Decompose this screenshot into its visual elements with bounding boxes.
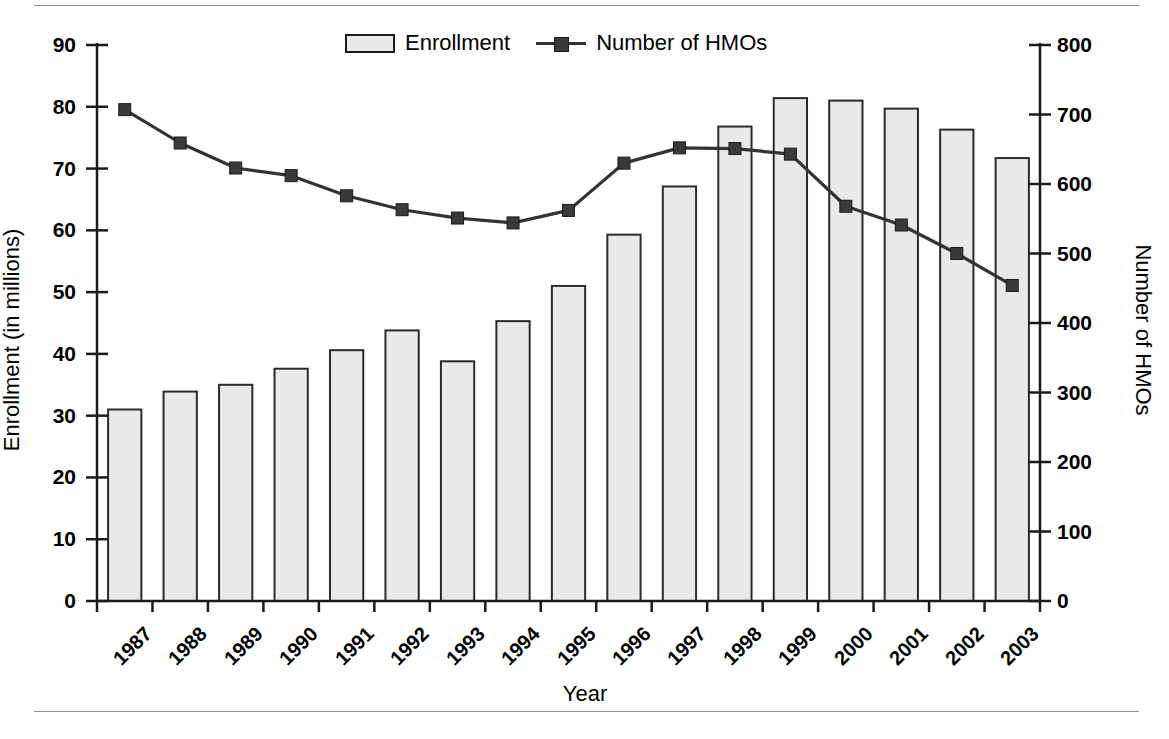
bar-1997 <box>663 186 696 601</box>
bar-1993 <box>441 361 474 601</box>
y-tick-label-right-300: 300 <box>1057 382 1127 403</box>
line-marker-1991 <box>341 190 353 202</box>
bar-1989 <box>219 385 252 601</box>
y-tick-label-left-70: 70 <box>16 158 76 179</box>
y-tick-label-left-40: 40 <box>16 343 76 364</box>
bar-2002 <box>940 130 973 601</box>
line-marker-1989 <box>230 162 242 174</box>
line-marker-1998 <box>729 143 741 155</box>
y-tick-label-right-700: 700 <box>1057 104 1127 125</box>
line-marker-1995 <box>563 204 575 216</box>
bar-1991 <box>330 350 363 601</box>
y-tick-label-right-500: 500 <box>1057 243 1127 264</box>
bar-1999 <box>774 98 807 601</box>
line-marker-2003 <box>1006 279 1018 291</box>
y-tick-label-right-100: 100 <box>1057 521 1127 542</box>
y-tick-label-right-800: 800 <box>1057 34 1127 55</box>
y-tick-label-right-600: 600 <box>1057 173 1127 194</box>
line-marker-1990 <box>285 170 297 182</box>
line-marker-1999 <box>784 148 796 160</box>
line-marker-1988 <box>174 137 186 149</box>
bar-1990 <box>275 369 308 601</box>
bar-2003 <box>996 158 1029 601</box>
y-tick-label-right-200: 200 <box>1057 451 1127 472</box>
y-tick-label-left-90: 90 <box>16 34 76 55</box>
bar-2001 <box>885 109 918 601</box>
y-tick-label-left-80: 80 <box>16 96 76 117</box>
bar-1988 <box>164 392 197 601</box>
line-marker-1997 <box>673 142 685 154</box>
line-marker-1992 <box>396 204 408 216</box>
bar-1994 <box>496 321 529 601</box>
line-marker-1996 <box>618 157 630 169</box>
hmo-count-line <box>125 110 1013 286</box>
line-series <box>119 104 1019 292</box>
y-tick-label-left-60: 60 <box>16 219 76 240</box>
y-tick-label-left-20: 20 <box>16 466 76 487</box>
bar-series <box>108 98 1029 601</box>
bar-1995 <box>552 286 585 601</box>
line-marker-2001 <box>895 219 907 231</box>
y-tick-label-left-30: 30 <box>16 405 76 426</box>
bar-1992 <box>385 330 418 601</box>
line-marker-2002 <box>951 248 963 260</box>
y-tick-label-left-0: 0 <box>16 590 76 611</box>
line-marker-1993 <box>452 212 464 224</box>
bar-1996 <box>607 235 640 601</box>
line-marker-1994 <box>507 217 519 229</box>
line-marker-1987 <box>119 104 131 116</box>
y-tick-label-left-50: 50 <box>16 281 76 302</box>
line-marker-2000 <box>840 200 852 212</box>
y-tick-label-right-0: 0 <box>1057 590 1127 611</box>
y-tick-label-right-400: 400 <box>1057 312 1127 333</box>
chart-figure: Enrollment Number of HMOs Enrollment (in… <box>0 0 1169 739</box>
bar-2000 <box>829 101 862 601</box>
bar-1998 <box>718 127 751 601</box>
y-tick-label-left-10: 10 <box>16 528 76 549</box>
bar-1987 <box>108 409 141 601</box>
